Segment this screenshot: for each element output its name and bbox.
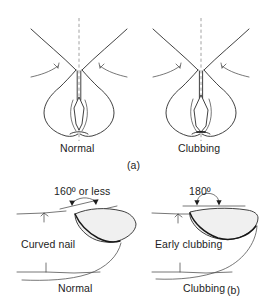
angle-arrow-left-normal bbox=[69, 200, 75, 206]
palmar-line-clubbing bbox=[152, 272, 232, 273]
angle-arrow-right-normal bbox=[93, 199, 99, 205]
panel-b-right-caption: Clubbing bbox=[183, 283, 225, 294]
angle-label-normal: 160º or less bbox=[54, 186, 110, 197]
finger-right-body bbox=[80, 70, 114, 136]
figure-root: Normal Clubbing (a) 160º or less Curved … bbox=[0, 0, 280, 307]
panel-a-label: (a) bbox=[127, 160, 140, 171]
crease-right-club bbox=[222, 66, 249, 77]
palmar-line-normal bbox=[17, 272, 100, 273]
angle-arrow-right-clubbing bbox=[216, 200, 221, 205]
nail-label-clubbing: Early clubbing bbox=[155, 239, 222, 250]
panel-a-right-caption: Clubbing bbox=[178, 143, 220, 154]
angle-label-clubbing: 180º bbox=[189, 186, 211, 197]
panel-b-clubbing-drawing bbox=[152, 193, 258, 279]
tick-right-b-club bbox=[221, 63, 222, 68]
tick-right-b bbox=[99, 63, 100, 68]
tick-left-b bbox=[58, 63, 59, 68]
panel-a-clubbing-drawing bbox=[153, 18, 249, 141]
panel-a-normal-drawing bbox=[31, 18, 127, 141]
finger-right-outer-upper-club bbox=[204, 29, 249, 70]
angle-arrow-left-clubbing bbox=[194, 200, 199, 205]
finger-left-outer-upper bbox=[31, 29, 76, 70]
angle-arc-normal bbox=[72, 198, 95, 203]
finger-left-body bbox=[44, 70, 78, 136]
panel-b-left-caption: Normal bbox=[58, 283, 92, 294]
panel-b-label: (b) bbox=[227, 285, 240, 296]
crease-left-club bbox=[153, 66, 180, 77]
finger-left-body-club bbox=[166, 70, 200, 136]
schamroth-window-clubbing bbox=[194, 95, 208, 132]
fingertip-junction-normal bbox=[70, 132, 88, 134]
nail-label-normal: Curved nail bbox=[21, 239, 75, 250]
dorsum-crease-normal-2 bbox=[41, 213, 48, 216]
tick-left-b-club bbox=[180, 63, 181, 68]
finger-right-body-club bbox=[202, 70, 236, 136]
nail-clubbing-illustration bbox=[0, 0, 280, 307]
schamroth-window-normal bbox=[74, 97, 84, 130]
finger-right-outer-upper bbox=[82, 29, 127, 70]
panel-a-left-caption: Normal bbox=[60, 143, 94, 154]
crease-left bbox=[31, 66, 58, 77]
finger-left-outer-upper-club bbox=[153, 29, 198, 70]
angle-arm-proximal-normal bbox=[60, 200, 98, 209]
crease-right bbox=[100, 66, 127, 77]
dorsum-crease-clubbing-2 bbox=[175, 214, 182, 217]
nail-plate-normal bbox=[75, 209, 136, 243]
dorsum-line-normal bbox=[17, 211, 66, 214]
nail-plate-clubbing bbox=[190, 208, 258, 239]
